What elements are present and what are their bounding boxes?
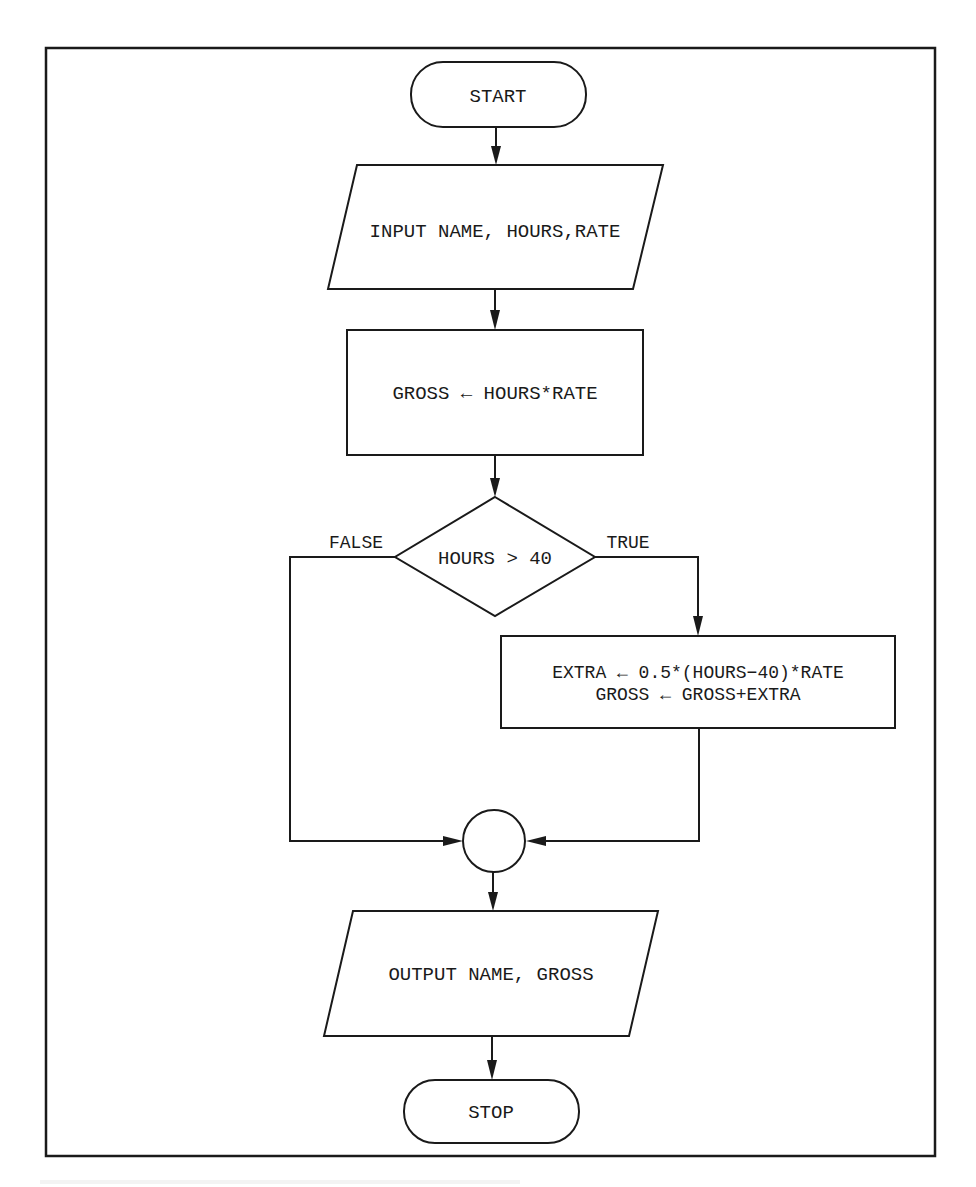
input-label: INPUT NAME, HOURS,RATE (370, 221, 621, 243)
stop-label: STOP (468, 1102, 514, 1124)
true-label: TRUE (606, 533, 649, 553)
decision-diamond: HOURS > 40 (395, 497, 595, 616)
start-label: START (469, 86, 526, 108)
cropped-caption (40, 1180, 520, 1184)
output-parallelogram: OUTPUT NAME, GROSS (324, 911, 658, 1036)
connector-circle (463, 810, 525, 872)
arrow-input-to-compute (490, 289, 500, 330)
false-label: FALSE (329, 533, 383, 553)
output-label: OUTPUT NAME, GROSS (388, 964, 593, 986)
overtime-process: EXTRA ← 0.5*(HOURS−40)*RATE GROSS ← GROS… (501, 636, 895, 728)
arrow-overtime-to-connector (526, 728, 699, 846)
input-parallelogram: INPUT NAME, HOURS,RATE (328, 165, 663, 289)
decision-label: HOURS > 40 (438, 548, 552, 570)
start-terminator: START (411, 62, 586, 127)
overtime-line-1: EXTRA ← 0.5*(HOURS−40)*RATE (552, 663, 844, 683)
arrow-connector-to-output (488, 872, 498, 911)
stop-terminator: STOP (404, 1080, 579, 1143)
arrow-start-to-input (491, 127, 501, 165)
arrow-compute-to-decision (490, 455, 500, 497)
flowchart-canvas: START INPUT NAME, HOURS,RATE GROSS ← HOU… (0, 0, 976, 1187)
compute-gross-process: GROSS ← HOURS*RATE (347, 330, 643, 455)
overtime-line-2: GROSS ← GROSS+EXTRA (595, 685, 800, 705)
compute-gross-label: GROSS ← HOURS*RATE (392, 383, 597, 405)
true-branch: TRUE (595, 533, 703, 636)
arrow-output-to-stop (487, 1036, 497, 1080)
